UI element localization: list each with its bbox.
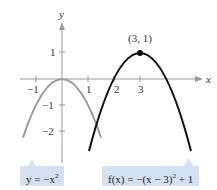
legend-right-text: f(x) = −(x − 3) <box>108 173 172 185</box>
y-tick-label: −1 <box>42 99 54 111</box>
x-tick-label: 1 <box>86 83 92 95</box>
x-tick-label: 2 <box>114 83 120 95</box>
legend-right-tail: + 1 <box>176 173 193 185</box>
vertex-point <box>137 50 143 56</box>
x-tick-label: −1 <box>27 83 39 95</box>
y-axis-arrow-icon <box>59 22 65 30</box>
vertex-label: (3, 1) <box>128 32 152 45</box>
y-tick-label: 1 <box>50 46 56 58</box>
graph-canvas: x y −1 1 2 3 1 −1 −2 (3, 1) <box>0 0 217 190</box>
x-axis-arrow-icon <box>195 76 203 82</box>
x-axis-label: x <box>205 73 211 85</box>
curve-f-shifted <box>89 53 191 151</box>
y-axis-label: y <box>58 8 64 20</box>
y-tick-label: −2 <box>42 125 54 137</box>
legend-left-text: y = −x <box>26 173 55 185</box>
right-callout-pointer <box>184 158 193 166</box>
legend-box-left: y = −x2 <box>20 166 64 186</box>
legend-left-exponent: 2 <box>55 172 59 180</box>
legend-box-right: f(x) = −(x − 3)2 + 1 <box>102 166 199 186</box>
x-tick-label: 3 <box>138 83 144 95</box>
